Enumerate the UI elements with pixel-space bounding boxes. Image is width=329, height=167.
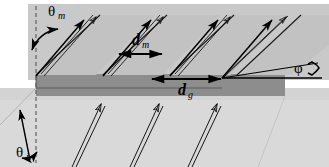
- grating-right-block: [222, 78, 285, 96]
- facet-riser-2: [103, 75, 163, 88]
- blazed-grating-figure: θ m θ i d m d g φ: [0, 0, 329, 167]
- theta-m-subscript: m: [58, 10, 65, 21]
- facet-riser-1: [36, 75, 96, 88]
- label-phi: φ: [294, 60, 303, 76]
- theta-m-symbol: θ: [48, 3, 55, 19]
- lower-background-plane: [0, 96, 329, 167]
- phi-symbol: φ: [294, 60, 303, 76]
- d-g-symbol: d: [178, 81, 187, 98]
- d-g-subscript: g: [188, 89, 193, 100]
- d-m-symbol: d: [132, 31, 141, 48]
- d-m-subscript: m: [142, 39, 149, 50]
- theta-i-symbol: θ: [16, 144, 23, 160]
- grating-diagram-canvas: θ m θ i d m d g φ: [0, 0, 329, 167]
- theta-i-subscript: i: [26, 151, 29, 162]
